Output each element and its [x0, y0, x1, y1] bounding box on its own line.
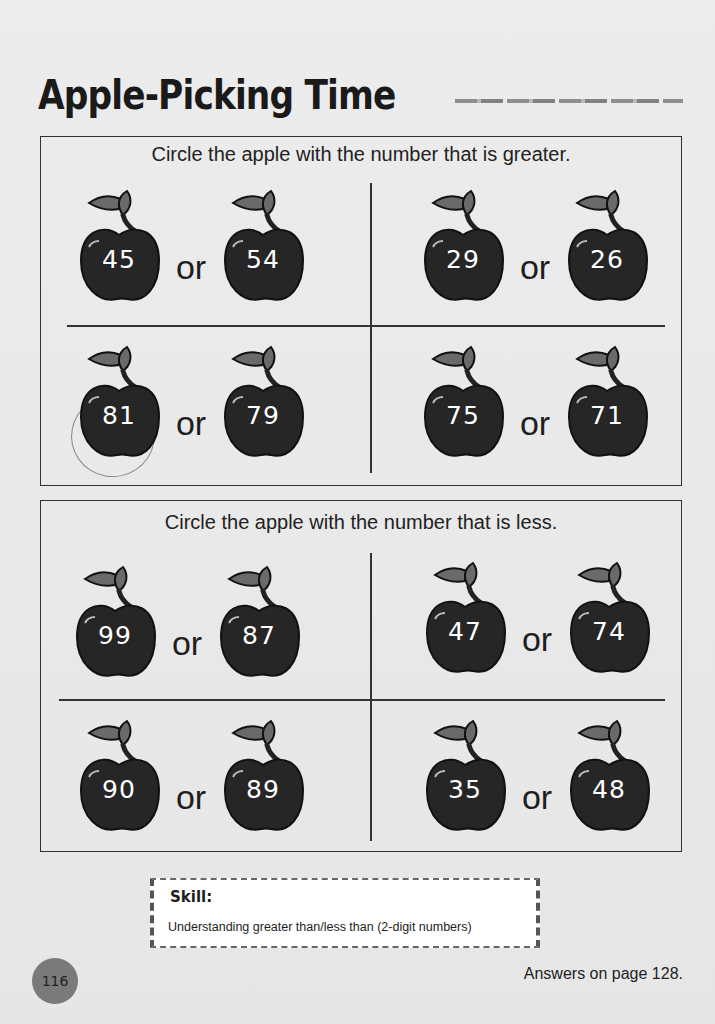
or-label: or — [161, 404, 221, 443]
apple-left[interactable]: 81 — [77, 343, 161, 461]
apple-number: 26 — [565, 245, 649, 274]
apple-left[interactable]: 35 — [423, 717, 507, 835]
or-label: or — [507, 620, 567, 659]
apple-number: 71 — [565, 401, 649, 430]
apple-left[interactable]: 99 — [73, 563, 157, 681]
page-number: 116 — [42, 973, 69, 989]
apple-left[interactable]: 75 — [421, 343, 505, 461]
skill-box: Skill: Understanding greater than/less t… — [150, 878, 540, 948]
pair-90-89: 90 or 89 — [77, 717, 305, 835]
apple-number: 47 — [423, 617, 507, 646]
pair-47-74: 47 or 74 — [423, 559, 651, 677]
or-label: or — [505, 404, 565, 443]
apple-right[interactable]: 87 — [217, 563, 301, 681]
pair-29-26: 29 or 26 — [421, 187, 649, 305]
pair-45-54: 45 or 54 — [77, 187, 305, 305]
skill-text: Understanding greater than/less than (2-… — [168, 920, 472, 934]
answers-note: Answers on page 128. — [524, 965, 683, 983]
apple-right[interactable]: 89 — [221, 717, 305, 835]
apple-number: 29 — [421, 245, 505, 274]
apple-number: 99 — [73, 621, 157, 650]
apple-number: 35 — [423, 775, 507, 804]
apple-right[interactable]: 48 — [567, 717, 651, 835]
pair-35-48: 35 or 48 — [423, 717, 651, 835]
horizontal-divider — [67, 325, 665, 327]
apple-right[interactable]: 71 — [565, 343, 649, 461]
vertical-divider — [370, 183, 372, 473]
title-decorative-rule — [455, 99, 683, 103]
horizontal-divider — [59, 699, 665, 701]
apple-number: 74 — [567, 617, 651, 646]
apple-number: 45 — [77, 245, 161, 274]
skill-label: Skill: — [170, 888, 212, 906]
apple-right[interactable]: 54 — [221, 187, 305, 305]
less-section: Circle the apple with the number that is… — [40, 500, 682, 852]
apple-number: 89 — [221, 775, 305, 804]
less-instruction: Circle the apple with the number that is… — [41, 511, 681, 534]
apple-number: 79 — [221, 401, 305, 430]
apple-number: 81 — [77, 401, 161, 430]
or-label: or — [505, 248, 565, 287]
pair-81-79: 81 or 79 — [77, 343, 305, 461]
or-label: or — [507, 778, 567, 817]
apple-left[interactable]: 29 — [421, 187, 505, 305]
apple-left[interactable]: 90 — [77, 717, 161, 835]
or-label: or — [157, 624, 217, 663]
apple-number: 87 — [217, 621, 301, 650]
apple-right[interactable]: 79 — [221, 343, 305, 461]
apple-number: 48 — [567, 775, 651, 804]
apple-left[interactable]: 47 — [423, 559, 507, 677]
page-title: Apple-Picking Time — [38, 72, 395, 118]
apple-number: 54 — [221, 245, 305, 274]
page-number-badge: 116 — [32, 958, 78, 1004]
or-label: or — [161, 778, 221, 817]
apple-number: 90 — [77, 775, 161, 804]
pair-75-71: 75 or 71 — [421, 343, 649, 461]
apple-right[interactable]: 74 — [567, 559, 651, 677]
apple-number: 75 — [421, 401, 505, 430]
apple-left[interactable]: 45 — [77, 187, 161, 305]
worksheet-page: Apple-Picking Time Circle the apple with… — [0, 0, 715, 1024]
pair-99-87: 99 or 87 — [73, 563, 301, 681]
vertical-divider — [370, 553, 372, 841]
or-label: or — [161, 248, 221, 287]
greater-section: Circle the apple with the number that is… — [40, 136, 682, 486]
greater-instruction: Circle the apple with the number that is… — [41, 143, 681, 166]
apple-right[interactable]: 26 — [565, 187, 649, 305]
